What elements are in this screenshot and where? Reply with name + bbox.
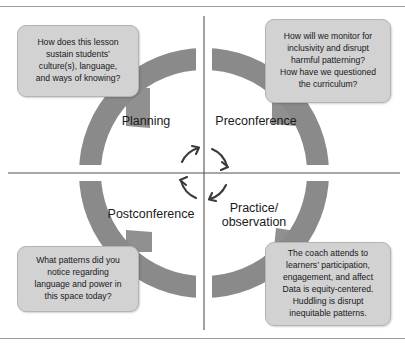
callout-postconference: What patterns did you notice regarding l… (17, 246, 139, 312)
callout-planning: How does this lesson sustain students’ c… (17, 25, 139, 97)
coaching-cycle-diagram: Planning Preconference Postconference Pr… (0, 0, 405, 350)
callout-preconference: How will we monitor for inclusivity and … (265, 19, 391, 103)
callout-practice: The coach attends to learners’ participa… (265, 242, 391, 326)
quadrant-label-preconference: Preconference (206, 114, 306, 128)
quadrant-label-postconference: Postconference (100, 207, 202, 221)
quadrant-label-planning: Planning (104, 114, 188, 128)
quadrant-label-practice: Practice/ observation (208, 201, 300, 230)
